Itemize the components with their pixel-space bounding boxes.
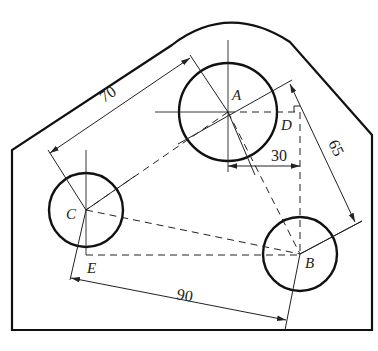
dim-70: 70 [96, 82, 119, 105]
ext-70-c [48, 150, 86, 210]
dim-30: 30 [271, 147, 287, 164]
drawing-canvas: A B C D E 70 65 30 90 [0, 0, 378, 351]
label-a: A [231, 87, 242, 103]
line-cb [86, 210, 300, 254]
label-c: C [66, 206, 77, 222]
dim-90: 90 [175, 285, 194, 305]
dimline-70 [50, 58, 190, 153]
right-angle-mark [294, 106, 300, 112]
ext-b-diag [300, 221, 362, 254]
part-outline [12, 23, 372, 330]
label-d: D [280, 117, 292, 133]
line-ab [228, 112, 300, 254]
label-b: B [305, 255, 314, 271]
label-e: E [86, 260, 96, 276]
dim-65: 65 [325, 137, 347, 159]
